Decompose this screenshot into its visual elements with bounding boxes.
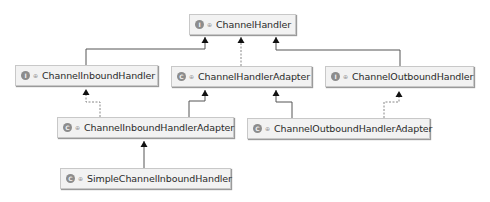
solid-connector-line [189, 90, 205, 117]
public-visibility-icon: ⊕ [78, 175, 83, 182]
arrowhead-icon [141, 141, 148, 147]
arrowhead-icon [83, 89, 90, 95]
edge-implements-channel-handler-adapter-to-channel-handler [238, 37, 245, 66]
node-label: ChannelOutboundHandler [352, 71, 473, 82]
class-icon: C [177, 72, 186, 81]
node-label: ChannelOutboundHandlerAdapter [274, 123, 432, 134]
node-channel-outbound-handler[interactable]: I⊕ChannelOutboundHandler [325, 66, 474, 87]
node-simple-channel-inbound-handler[interactable]: C⊕SimpleChannelInboundHandler [60, 168, 231, 189]
edge-implements-channel-outbound-handler-adapter-to-channel-outbound-handler [384, 91, 403, 118]
node-channel-outbound-handler-adapter[interactable]: C⊕ChannelOutboundHandlerAdapter [247, 118, 430, 139]
interface-icon: I [195, 20, 204, 29]
class-icon: C [63, 123, 72, 132]
edge-extends-channel-inbound-handler-to-channel-handler [86, 37, 209, 65]
node-channel-handler-adapter[interactable]: C⊕ChannelHandlerAdapter [171, 66, 312, 87]
class-icon: C [253, 124, 262, 133]
public-visibility-icon: ⊕ [33, 72, 38, 79]
arrowhead-icon [202, 37, 209, 43]
public-visibility-icon: ⊕ [265, 125, 270, 132]
edge-implements-channel-inbound-handler-adapter-to-channel-inbound-handler [83, 89, 101, 117]
public-visibility-icon: ⊕ [189, 73, 194, 80]
arrowhead-icon [273, 37, 280, 43]
arrowhead-icon [396, 91, 403, 97]
public-visibility-icon: ⊕ [207, 21, 212, 28]
edge-extends-simple-channel-inbound-handler-to-channel-inbound-handler-adapter [141, 141, 148, 168]
arrowhead-icon [273, 90, 280, 96]
node-label: SimpleChannelInboundHandler [87, 173, 232, 184]
public-visibility-icon: ⊕ [343, 73, 348, 80]
node-label: ChannelInboundHandler [42, 70, 155, 81]
interface-icon: I [331, 72, 340, 81]
edge-extends-channel-outbound-handler-to-channel-handler [273, 37, 401, 66]
solid-connector-line [86, 37, 205, 65]
class-hierarchy-diagram: I⊕ChannelHandlerI⊕ChannelInboundHandlerC… [0, 0, 490, 202]
node-label: ChannelInboundHandlerAdapter [84, 122, 234, 133]
edge-extends-channel-outbound-handler-adapter-to-channel-handler-adapter [273, 90, 293, 118]
node-channel-inbound-handler[interactable]: I⊕ChannelInboundHandler [15, 65, 158, 86]
node-label: ChannelHandlerAdapter [198, 71, 310, 82]
class-icon: C [66, 174, 75, 183]
interface-icon: I [21, 71, 30, 80]
node-channel-inbound-handler-adapter[interactable]: C⊕ChannelInboundHandlerAdapter [57, 117, 234, 138]
node-channel-handler[interactable]: I⊕ChannelHandler [189, 14, 296, 35]
solid-connector-line [276, 37, 400, 66]
arrowhead-icon [202, 90, 209, 96]
arrowhead-icon [238, 37, 245, 43]
public-visibility-icon: ⊕ [75, 124, 80, 131]
node-label: ChannelHandler [216, 19, 291, 30]
edge-extends-channel-inbound-handler-adapter-to-channel-handler-adapter [189, 90, 209, 117]
